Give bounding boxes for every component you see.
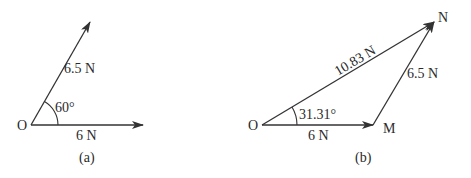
point-label-m: M — [383, 121, 396, 136]
vector-label-6n: 6 N — [76, 128, 97, 143]
vector-label-om: 6 N — [308, 128, 329, 143]
angle-label-31-31: 31.31° — [299, 107, 336, 122]
origin-label-o: O — [17, 118, 27, 133]
point-label-n: N — [438, 10, 448, 25]
angle-label-60: 60° — [55, 100, 75, 115]
vector-label-mn: 6.5 N — [407, 66, 438, 81]
vector-label-6-5n: 6.5 N — [64, 61, 95, 76]
origin-label-o: O — [248, 118, 258, 133]
caption-b: (b) — [355, 150, 372, 166]
caption-a: (a) — [79, 150, 95, 166]
figure-a: O 6.5 N 60° 6 N (a) — [17, 22, 143, 166]
figure-b: O M N 31.31° 6 N 6.5 N 10.83 N (b) — [248, 10, 448, 166]
force-vector-diagram: O 6.5 N 60° 6 N (a) O M N 31.31° 6 N 6.5… — [0, 0, 471, 178]
angle-arc-31-31 — [292, 107, 297, 125]
vector-label-on: 10.83 N — [332, 42, 378, 78]
